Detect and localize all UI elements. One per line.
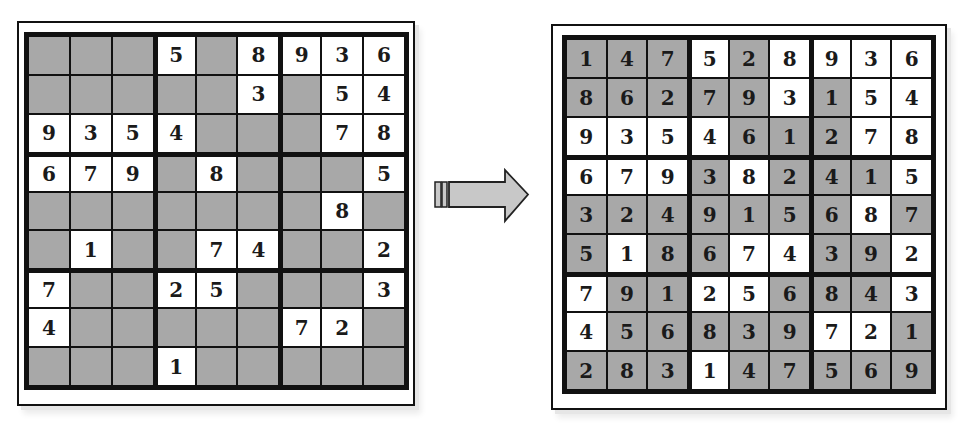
puzzle-cell-r8c4[interactable] [158, 309, 195, 346]
puzzle-cell-r1c6[interactable]: 8 [238, 37, 278, 74]
puzzle-cell-r9c3[interactable] [113, 348, 153, 385]
puzzle-cell-r5c7[interactable] [283, 193, 320, 230]
solution-cell-r2c3[interactable]: 2 [648, 79, 687, 116]
solution-cell-r2c6[interactable]: 3 [770, 79, 809, 116]
solution-cell-r3c9[interactable]: 8 [892, 118, 931, 155]
puzzle-cell-r9c7[interactable] [283, 348, 320, 385]
solution-cell-r9c1[interactable]: 2 [567, 352, 606, 389]
puzzle-cell-r2c7[interactable] [283, 76, 320, 113]
solution-cell-r9c6[interactable]: 7 [770, 352, 809, 389]
solution-cell-r8c9[interactable]: 1 [892, 313, 931, 350]
solution-cell-r8c7[interactable]: 7 [814, 313, 850, 350]
puzzle-cell-r2c8[interactable]: 5 [322, 76, 362, 113]
solution-cell-r4c4[interactable]: 3 [692, 160, 728, 194]
solution-cell-r5c4[interactable]: 9 [692, 196, 728, 233]
solution-cell-r2c5[interactable]: 9 [730, 79, 769, 116]
solution-cell-r4c3[interactable]: 9 [648, 160, 687, 194]
solution-cell-r6c1[interactable]: 5 [567, 235, 606, 272]
solution-cell-r7c6[interactable]: 6 [770, 277, 809, 311]
solution-cell-r1c5[interactable]: 2 [730, 40, 769, 77]
puzzle-cell-r5c3[interactable] [113, 193, 153, 230]
solution-cell-r4c7[interactable]: 4 [814, 160, 850, 194]
puzzle-cell-r2c9[interactable]: 4 [364, 76, 404, 113]
solution-cell-r4c9[interactable]: 5 [892, 160, 931, 194]
solution-cell-r2c7[interactable]: 1 [814, 79, 850, 116]
puzzle-cell-r8c8[interactable]: 2 [322, 309, 362, 346]
solution-cell-r4c5[interactable]: 8 [730, 160, 769, 194]
puzzle-cell-r4c2[interactable]: 7 [71, 157, 111, 191]
solution-cell-r2c8[interactable]: 5 [852, 79, 891, 116]
solution-cell-r3c6[interactable]: 1 [770, 118, 809, 155]
puzzle-cell-r2c3[interactable] [113, 76, 153, 113]
solution-cell-r4c8[interactable]: 1 [852, 160, 891, 194]
solution-cell-r9c7[interactable]: 5 [814, 352, 850, 389]
solution-cell-r8c6[interactable]: 9 [770, 313, 809, 350]
solution-cell-r9c3[interactable]: 3 [648, 352, 687, 389]
solution-cell-r9c5[interactable]: 4 [730, 352, 769, 389]
puzzle-cell-r6c5[interactable]: 7 [197, 231, 237, 268]
puzzle-cell-r2c2[interactable] [71, 76, 111, 113]
solution-cell-r6c4[interactable]: 6 [692, 235, 728, 272]
puzzle-cell-r4c7[interactable] [283, 157, 320, 191]
puzzle-cell-r1c4[interactable]: 5 [158, 37, 195, 74]
solution-cell-r8c5[interactable]: 3 [730, 313, 769, 350]
solution-cell-r9c8[interactable]: 6 [852, 352, 891, 389]
solution-cell-r7c8[interactable]: 4 [852, 277, 891, 311]
solution-cell-r8c3[interactable]: 6 [648, 313, 687, 350]
solution-cell-r2c1[interactable]: 8 [567, 79, 606, 116]
solution-cell-r7c1[interactable]: 7 [567, 277, 606, 311]
puzzle-cell-r2c6[interactable]: 3 [238, 76, 278, 113]
puzzle-cell-r4c3[interactable]: 9 [113, 157, 153, 191]
puzzle-cell-r4c8[interactable] [322, 157, 362, 191]
puzzle-cell-r5c8[interactable]: 8 [322, 193, 362, 230]
solution-cell-r6c2[interactable]: 1 [608, 235, 647, 272]
solution-cell-r3c4[interactable]: 4 [692, 118, 728, 155]
puzzle-cell-r5c9[interactable] [364, 193, 404, 230]
puzzle-cell-r9c6[interactable] [238, 348, 278, 385]
solution-cell-r9c9[interactable]: 9 [892, 352, 931, 389]
solution-cell-r4c1[interactable]: 6 [567, 160, 606, 194]
puzzle-cell-r2c1[interactable] [29, 76, 69, 113]
puzzle-cell-r6c8[interactable] [322, 231, 362, 268]
solution-cell-r3c1[interactable]: 9 [567, 118, 606, 155]
puzzle-cell-r7c7[interactable] [283, 273, 320, 307]
solution-cell-r1c7[interactable]: 9 [814, 40, 850, 77]
puzzle-cell-r3c5[interactable] [197, 115, 237, 152]
solution-cell-r4c6[interactable]: 2 [770, 160, 809, 194]
solution-cell-r6c7[interactable]: 3 [814, 235, 850, 272]
solution-cell-r5c7[interactable]: 6 [814, 196, 850, 233]
solution-cell-r1c9[interactable]: 6 [892, 40, 931, 77]
puzzle-cell-r3c3[interactable]: 5 [113, 115, 153, 152]
solution-cell-r7c3[interactable]: 1 [648, 277, 687, 311]
solution-cell-r2c9[interactable]: 4 [892, 79, 931, 116]
solution-cell-r5c3[interactable]: 4 [648, 196, 687, 233]
puzzle-cell-r2c4[interactable] [158, 76, 195, 113]
puzzle-cell-r1c2[interactable] [71, 37, 111, 74]
solution-cell-r5c9[interactable]: 7 [892, 196, 931, 233]
solution-cell-r1c2[interactable]: 4 [608, 40, 647, 77]
puzzle-cell-r7c8[interactable] [322, 273, 362, 307]
solution-cell-r6c3[interactable]: 8 [648, 235, 687, 272]
solution-cell-r9c2[interactable]: 8 [608, 352, 647, 389]
puzzle-cell-r7c9[interactable]: 3 [364, 273, 404, 307]
solution-cell-r3c8[interactable]: 7 [852, 118, 891, 155]
puzzle-cell-r2c5[interactable] [197, 76, 237, 113]
puzzle-cell-r7c5[interactable]: 5 [197, 273, 237, 307]
solution-cell-r8c8[interactable]: 2 [852, 313, 891, 350]
puzzle-cell-r4c6[interactable] [238, 157, 278, 191]
puzzle-cell-r1c8[interactable]: 3 [322, 37, 362, 74]
puzzle-cell-r6c9[interactable]: 2 [364, 231, 404, 268]
puzzle-cell-r4c9[interactable]: 5 [364, 157, 404, 191]
puzzle-cell-r8c3[interactable] [113, 309, 153, 346]
solution-cell-r8c1[interactable]: 4 [567, 313, 606, 350]
puzzle-cell-r3c4[interactable]: 4 [158, 115, 195, 152]
puzzle-cell-r5c2[interactable] [71, 193, 111, 230]
solution-cell-r1c6[interactable]: 8 [770, 40, 809, 77]
puzzle-cell-r6c3[interactable] [113, 231, 153, 268]
puzzle-cell-r8c5[interactable] [197, 309, 237, 346]
solution-cell-r4c2[interactable]: 7 [608, 160, 647, 194]
solution-cell-r7c2[interactable]: 9 [608, 277, 647, 311]
puzzle-cell-r8c1[interactable]: 4 [29, 309, 69, 346]
solution-cell-r3c7[interactable]: 2 [814, 118, 850, 155]
puzzle-cell-r6c6[interactable]: 4 [238, 231, 278, 268]
